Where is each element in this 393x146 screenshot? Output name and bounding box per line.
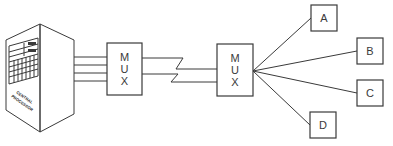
mux-right: M U X <box>217 44 253 96</box>
link-channel-1 <box>142 58 217 69</box>
computer-front-face <box>40 24 74 132</box>
terminal-d-label: D <box>319 119 327 131</box>
terminal-a-label: A <box>320 12 328 24</box>
terminal-b: B <box>357 38 383 64</box>
multiplexer-diagram: CENTRAL PROCESSOR M U X M U X A <box>0 0 393 146</box>
mux-right-letter-x: X <box>231 76 239 88</box>
communication-link <box>142 58 217 82</box>
terminal-c: C <box>357 80 383 106</box>
computer-control-panel <box>9 38 38 84</box>
mux-right-letter-u: U <box>231 64 239 76</box>
terminal-c-label: C <box>366 87 374 99</box>
mux-left-letter-u: U <box>121 63 129 75</box>
central-computer: CENTRAL PROCESSOR <box>6 24 74 132</box>
mux-right-letter-m: M <box>230 52 239 64</box>
terminal-b-label: B <box>366 45 373 57</box>
computer-side-face <box>6 24 40 132</box>
mux-left-letter-m: M <box>120 51 129 63</box>
terminal-d: D <box>310 112 336 138</box>
mux-left-letter-x: X <box>121 75 129 87</box>
fanout-lines <box>253 18 357 125</box>
mux-left: M U X <box>107 43 142 95</box>
terminal-a: A <box>311 5 337 31</box>
link-channel-2 <box>142 74 217 82</box>
computer-to-mux-lines <box>74 57 107 81</box>
